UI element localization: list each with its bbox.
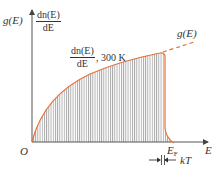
fermi-symbol: E — [167, 144, 174, 156]
temperature-label: , 300 K — [96, 52, 126, 63]
y-axis-label-g: g(E) — [3, 15, 23, 26]
y-axis-label-dndE: dn(E) dE — [36, 10, 61, 33]
fraction-denominator: dE — [77, 58, 88, 69]
distribution-label: dn(E) dE — [70, 46, 95, 69]
fermi-subscript: F — [174, 150, 178, 158]
fraction-numerator: dn(E) — [36, 10, 61, 22]
g-curve-label: g(E) — [177, 28, 197, 39]
origin-label: O — [20, 146, 28, 157]
kt-label: kT — [180, 155, 191, 166]
occupied-states-area — [32, 53, 172, 142]
x-axis-label: E — [205, 145, 212, 156]
fraction-denominator: dE — [43, 22, 54, 33]
fermi-energy-label: EF — [167, 145, 178, 158]
g-curve-dashed — [163, 42, 194, 52]
fraction-numerator: dn(E) — [70, 46, 95, 58]
